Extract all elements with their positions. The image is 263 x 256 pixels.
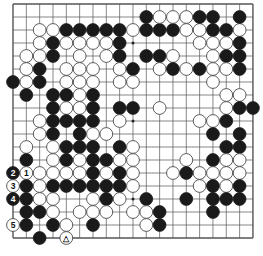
black-stone xyxy=(113,167,126,180)
white-stone xyxy=(180,63,193,76)
white-stone xyxy=(60,63,73,76)
black-stone xyxy=(47,180,60,193)
black-stone xyxy=(20,180,33,193)
white-stone xyxy=(233,24,246,37)
white-stone xyxy=(87,128,100,141)
white-stone xyxy=(193,180,206,193)
white-stone xyxy=(220,37,233,50)
white-stone xyxy=(167,11,180,24)
black-stone xyxy=(127,63,140,76)
black-stone xyxy=(207,24,220,37)
black-stone xyxy=(220,115,233,128)
white-stone xyxy=(87,76,100,89)
black-stone xyxy=(47,128,60,141)
black-stone xyxy=(47,89,60,102)
black-stone xyxy=(220,141,233,154)
white-stone xyxy=(60,76,73,89)
black-stone xyxy=(193,11,206,24)
white-stone xyxy=(100,50,113,63)
white-stone xyxy=(33,167,46,180)
black-stone xyxy=(73,115,86,128)
white-stone xyxy=(113,193,126,206)
star-point xyxy=(131,198,134,201)
black-stone xyxy=(113,50,126,63)
black-stone xyxy=(220,193,233,206)
black-stone xyxy=(100,180,113,193)
white-stone xyxy=(207,37,220,50)
black-stone xyxy=(233,193,246,206)
white-stone xyxy=(233,154,246,167)
white-stone xyxy=(207,115,220,128)
white-stone xyxy=(180,11,193,24)
black-stone xyxy=(7,76,20,89)
white-stone xyxy=(87,193,100,206)
white-stone xyxy=(33,193,46,206)
white-stone xyxy=(100,206,113,219)
black-stone xyxy=(193,63,206,76)
white-stone xyxy=(20,141,33,154)
black-stone xyxy=(153,24,166,37)
white-stone: 5 xyxy=(7,219,20,232)
white-stone xyxy=(60,167,73,180)
black-stone xyxy=(73,141,86,154)
white-stone xyxy=(33,50,46,63)
stone-label: 5 xyxy=(11,220,16,230)
white-stone xyxy=(20,50,33,63)
black-stone xyxy=(100,193,113,206)
black-stone xyxy=(87,89,100,102)
white-stone xyxy=(33,180,46,193)
black-stone xyxy=(60,89,73,102)
white-stone xyxy=(33,24,46,37)
white-stone xyxy=(153,63,166,76)
white-stone xyxy=(167,50,180,63)
white-stone xyxy=(20,76,33,89)
black-stone xyxy=(87,141,100,154)
white-stone xyxy=(113,154,126,167)
black-stone xyxy=(33,232,46,245)
white-stone xyxy=(220,89,233,102)
black-stone xyxy=(60,141,73,154)
white-stone xyxy=(153,102,166,115)
white-stone xyxy=(127,141,140,154)
stone-label: △ xyxy=(62,234,70,243)
white-stone xyxy=(33,115,46,128)
white-stone xyxy=(73,63,86,76)
white-stone xyxy=(207,76,220,89)
white-stone xyxy=(127,206,140,219)
black-stone xyxy=(87,154,100,167)
white-stone xyxy=(87,63,100,76)
black-stone xyxy=(233,180,246,193)
black-stone xyxy=(60,24,73,37)
black-stone xyxy=(167,24,180,37)
black-stone xyxy=(100,24,113,37)
white-stone xyxy=(113,76,126,89)
white-stone xyxy=(73,37,86,50)
white-stone: 3 xyxy=(7,180,20,193)
black-stone xyxy=(207,193,220,206)
black-stone xyxy=(247,102,260,115)
black-stone xyxy=(33,206,46,219)
white-stone xyxy=(47,167,60,180)
black-stone xyxy=(73,128,86,141)
white-stone xyxy=(167,167,180,180)
white-stone xyxy=(140,219,153,232)
black-stone xyxy=(87,115,100,128)
white-stone xyxy=(127,167,140,180)
white-stone xyxy=(100,167,113,180)
black-stone xyxy=(47,50,60,63)
white-stone xyxy=(73,154,86,167)
black-stone xyxy=(20,89,33,102)
white-stone: △ xyxy=(60,232,73,245)
black-stone xyxy=(87,102,100,115)
black-stone xyxy=(233,141,246,154)
white-stone xyxy=(73,89,86,102)
stone-label: 3 xyxy=(11,181,16,191)
black-stone: 2 xyxy=(7,167,20,180)
black-stone xyxy=(207,154,220,167)
white-stone xyxy=(127,180,140,193)
black-stone xyxy=(207,206,220,219)
white-stone xyxy=(47,206,60,219)
white-stone xyxy=(87,206,100,219)
white-stone xyxy=(127,154,140,167)
black-stone xyxy=(233,11,246,24)
